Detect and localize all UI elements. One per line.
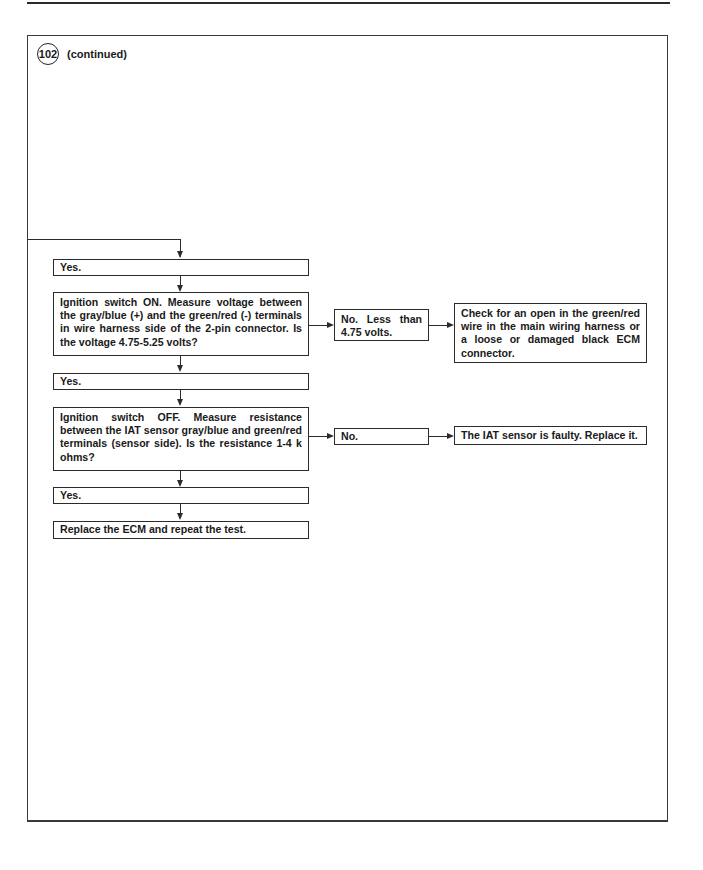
question-box-voltage: Ignition switch ON. Measure voltage betw…	[53, 292, 309, 356]
yes-label: Yes.	[60, 375, 302, 388]
arrow-down-icon	[177, 365, 183, 372]
question-text: Ignition switch OFF. Measure resistance …	[60, 411, 302, 464]
no-box-voltage: No. Less than 4.75 volts.	[334, 309, 429, 341]
arrow-right-icon	[447, 433, 454, 439]
arrow-right-icon	[327, 322, 334, 328]
connector-line	[309, 436, 329, 437]
result-text: Check for an open in the green/red wire …	[461, 307, 640, 360]
connector-line	[429, 436, 449, 437]
no-label: No. Less than 4.75 volts.	[341, 313, 422, 339]
question-box-resistance: Ignition switch OFF. Measure resistance …	[53, 407, 309, 471]
step-continued-label: (continued)	[67, 48, 127, 60]
yes-box-2: Yes.	[53, 373, 309, 390]
connector-line	[27, 239, 181, 240]
result-box-sensor-faulty: The IAT sensor is faulty. Replace it.	[454, 426, 647, 445]
arrow-down-icon	[177, 285, 183, 292]
result-text: The IAT sensor is faulty. Replace it.	[461, 429, 640, 442]
yes-label: Yes.	[60, 261, 302, 274]
arrow-down-icon	[177, 399, 183, 406]
step-number-badge: 102	[37, 43, 59, 65]
step-header: 102 (continued)	[37, 43, 127, 65]
result-box-open-circuit: Check for an open in the green/red wire …	[454, 303, 647, 363]
yes-box-1: Yes.	[53, 259, 309, 276]
arrow-right-icon	[447, 322, 454, 328]
yes-box-3: Yes.	[53, 487, 309, 504]
page-header-rule	[27, 2, 670, 4]
arrow-down-icon	[177, 480, 183, 487]
connector-line	[309, 325, 329, 326]
no-box-resistance: No.	[334, 428, 429, 445]
arrow-down-icon	[177, 251, 183, 258]
yes-label: Yes.	[60, 489, 302, 502]
final-action-box: Replace the ECM and repeat the test.	[53, 521, 309, 539]
connector-line	[429, 325, 449, 326]
arrow-right-icon	[327, 433, 334, 439]
no-label: No.	[341, 430, 422, 443]
final-action-text: Replace the ECM and repeat the test.	[60, 523, 302, 536]
arrow-down-icon	[177, 513, 183, 520]
question-text: Ignition switch ON. Measure voltage betw…	[60, 296, 302, 349]
